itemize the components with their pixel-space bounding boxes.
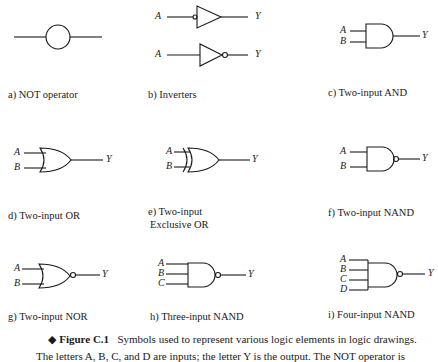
pin-b: B [14,277,20,288]
pin-y: Y [422,29,428,40]
xor-gate-symbol [174,148,250,172]
pin-d: D [340,283,347,294]
pin-y: Y [102,268,108,279]
pin-b: B [14,161,20,172]
panel-label-a: a) NOT operator [8,89,78,100]
pin-c: C [158,277,165,288]
panel-label-d: d) Two-input OR [8,210,80,221]
panel-label-c: c) Two-input AND [328,87,407,98]
pin-y: Y [252,153,258,164]
and-gate-symbol [350,24,420,48]
panel-label-h: h) Three-input NAND [150,311,244,322]
pin-b: B [340,160,346,171]
panel-label-b: b) Inverters [148,89,197,100]
panel-label-g: g) Two-input NOR [8,311,88,322]
caption-text: Symbols used to represent various logic … [117,333,416,345]
panel-label-f: f) Two-input NAND [328,207,414,218]
diamond-bullet-icon: ◆ [48,333,56,345]
pin-a: A [166,145,172,156]
pin-y: Y [422,152,428,163]
panel-label-i: i) Four-input NAND [328,309,415,320]
pin-a: A [14,262,20,273]
pin-b: B [166,160,172,171]
figure-number: Figure C.1 [59,333,109,345]
pin-y: Y [106,153,112,164]
inverter-input-bubble-symbol [167,6,248,28]
or-gate-symbol [24,148,103,172]
four-input-nand-gate-symbol [349,260,425,290]
pin-a: A [340,24,346,35]
pin-a: A [155,48,161,59]
caption-line-2: The letters A, B, C, and D are inputs; t… [36,350,405,362]
pin-a: A [155,10,161,21]
figure-caption: ◆ Figure C.1 Symbols used to represent v… [48,333,417,346]
not-operator-symbol [14,25,102,49]
pin-y: Y [428,267,434,278]
inverter-output-bubble-symbol [167,44,248,66]
pin-y: Y [255,48,261,59]
pin-a: A [14,146,20,157]
pin-a: A [340,145,346,156]
three-input-nand-gate-symbol [166,263,246,287]
pin-b: B [340,35,346,46]
pin-y: Y [248,268,254,279]
pin-y: Y [255,10,261,21]
panel-label-e-line2: Exclusive OR [150,219,209,230]
nand-gate-symbol [350,147,420,171]
panel-label-e: e) Two-input [148,206,202,217]
nor-gate-symbol [22,264,100,288]
